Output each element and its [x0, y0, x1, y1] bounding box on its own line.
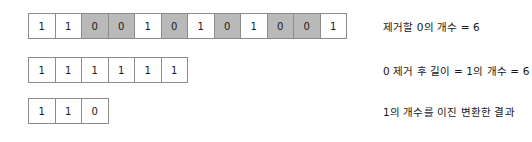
bit-cell: 1 — [134, 57, 162, 83]
caption-binary-result: 1의 개수를 이진 변환한 결과 — [383, 98, 515, 124]
bit-cell: 1 — [55, 98, 83, 124]
diagram-row-original: 110010101001 제거할 0의 개수 = 6 — [0, 13, 532, 39]
caption-after-removal: 0 제거 후 길이 = 1의 개수 = 6 — [383, 57, 529, 83]
bit-cell: 0 — [267, 13, 295, 39]
diagram-row-binary-result: 110 1의 개수를 이진 변환한 결과 — [0, 98, 532, 124]
bit-cell: 1 — [108, 57, 136, 83]
bit-cell: 1 — [55, 13, 83, 39]
bit-cell: 1 — [28, 13, 56, 39]
binary-transform-diagram: 110010101001 제거할 0의 개수 = 6 111111 0 제거 후… — [0, 0, 532, 142]
cell-strip-binary-result: 110 — [28, 98, 108, 124]
bit-cell: 1 — [187, 13, 215, 39]
caption-original: 제거할 0의 개수 = 6 — [383, 13, 480, 39]
cell-strip-after-removal: 111111 — [28, 57, 187, 83]
bit-cell: 1 — [28, 98, 56, 124]
bit-cell: 1 — [28, 57, 56, 83]
cell-strip-original: 110010101001 — [28, 13, 346, 39]
bit-cell: 0 — [81, 13, 109, 39]
bit-cell: 1 — [134, 13, 162, 39]
bit-cell: 0 — [293, 13, 321, 39]
bit-cell: 0 — [81, 98, 109, 124]
bit-cell: 0 — [214, 13, 242, 39]
bit-cell: 0 — [161, 13, 189, 39]
bit-cell: 0 — [108, 13, 136, 39]
bit-cell: 1 — [55, 57, 83, 83]
bit-cell: 1 — [320, 13, 348, 39]
bit-cell: 1 — [81, 57, 109, 83]
diagram-row-after-removal: 111111 0 제거 후 길이 = 1의 개수 = 6 — [0, 57, 532, 83]
bit-cell: 1 — [240, 13, 268, 39]
bit-cell: 1 — [161, 57, 189, 83]
